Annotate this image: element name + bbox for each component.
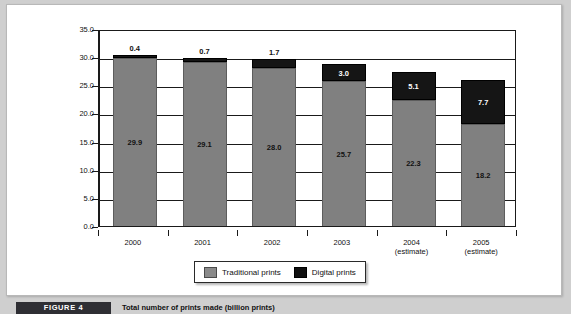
bar-value-label-digital: 0.4	[113, 44, 157, 53]
legend-item[interactable]: Digital prints	[294, 267, 356, 278]
figure-caption-text: Total number of prints made (billion pri…	[122, 302, 275, 314]
bar-segment-digital[interactable]	[252, 59, 296, 69]
bar-segment-traditional[interactable]: 25.7	[322, 81, 366, 226]
bar-stack[interactable]: 25.73.0	[322, 29, 366, 226]
x-axis-tick-mark	[98, 230, 99, 236]
x-axis-tick-label: 2001	[168, 238, 238, 247]
bar-value-label-traditional: 25.7	[323, 150, 365, 159]
x-axis-tick-label: 2004(estimate)	[377, 238, 447, 256]
gridline	[100, 87, 515, 88]
bar-value-label-traditional: 29.1	[184, 140, 226, 149]
x-axis-tick-mark	[377, 230, 378, 236]
legend-label: Traditional prints	[222, 268, 281, 277]
gray-swatch	[204, 267, 217, 278]
x-axis-year: 2001	[194, 238, 211, 247]
x-axis-tick-label: 2002	[237, 238, 307, 247]
figure-card: 35.030.025.020.015.010.05.00.0 29.90.429…	[6, 4, 562, 296]
stacked-bar-chart: 35.030.025.020.015.010.05.00.0 29.90.429…	[7, 5, 563, 297]
bar-stack[interactable]: 29.10.7	[183, 29, 227, 226]
x-axis-estimate-note: (estimate)	[446, 247, 516, 256]
figure-page: 35.030.025.020.015.010.05.00.0 29.90.429…	[0, 0, 571, 314]
bar-segment-digital[interactable]	[113, 55, 157, 57]
bar-segment-traditional[interactable]: 29.9	[113, 58, 157, 226]
chart-legend: Traditional printsDigital prints	[194, 261, 366, 283]
bar-value-label-traditional: 29.9	[114, 138, 156, 147]
x-axis-labels: 20002001200220032004(estimate)2005(estim…	[98, 230, 516, 260]
bar-value-label-digital: 1.7	[252, 48, 296, 57]
x-axis-tick-mark	[446, 230, 447, 236]
gridline	[100, 144, 515, 145]
bar-segment-traditional[interactable]: 29.1	[183, 62, 227, 226]
bar-segment-traditional[interactable]: 18.2	[461, 124, 505, 226]
x-axis-tick-label: 2005(estimate)	[446, 238, 516, 256]
bar-segment-traditional[interactable]: 28.0	[252, 68, 296, 226]
gridline	[100, 59, 515, 60]
x-axis-year: 2003	[333, 238, 350, 247]
y-axis-tick-mark	[92, 227, 98, 228]
bar-segment-traditional[interactable]: 22.3	[392, 100, 436, 226]
bar-value-label-traditional: 22.3	[393, 159, 435, 168]
y-axis-labels: 35.030.025.020.015.010.05.00.0	[62, 30, 94, 227]
bar-value-label-digital: 0.7	[183, 47, 227, 56]
bar-stack[interactable]: 28.01.7	[252, 29, 296, 226]
x-axis-tick-mark	[516, 230, 517, 236]
gridline	[100, 115, 515, 116]
x-axis-tick-mark	[237, 230, 238, 236]
gridline	[100, 200, 515, 201]
bar-segment-digital[interactable]: 5.1	[392, 72, 436, 101]
bar-stack[interactable]: 18.27.7	[461, 29, 505, 226]
x-axis-year: 2004	[403, 238, 420, 247]
x-axis-tick-label: 2003	[307, 238, 377, 247]
x-axis-year: 2002	[264, 238, 281, 247]
x-axis-tick-mark	[168, 230, 169, 236]
x-axis-estimate-note: (estimate)	[377, 247, 447, 256]
black-swatch	[294, 267, 307, 278]
legend-item[interactable]: Traditional prints	[204, 267, 281, 278]
x-axis-year: 2000	[124, 238, 141, 247]
x-axis-tick-label: 2000	[98, 238, 168, 247]
figure-number-tag: FIGURE 4	[16, 302, 111, 314]
legend-label: Digital prints	[312, 268, 356, 277]
x-axis-tick-mark	[307, 230, 308, 236]
bar-value-label-traditional: 18.2	[462, 171, 504, 180]
bar-value-label-traditional: 28.0	[253, 143, 295, 152]
bar-segment-digital[interactable]: 3.0	[322, 64, 366, 81]
x-axis-year: 2005	[473, 238, 490, 247]
bar-stack[interactable]: 29.90.4	[113, 29, 157, 226]
plot-area: 29.90.429.10.728.01.725.73.022.35.118.27…	[98, 30, 516, 227]
bar-value-label-digital: 3.0	[323, 69, 365, 78]
bar-segment-digital[interactable]: 7.7	[461, 80, 505, 123]
gridline	[100, 172, 515, 173]
bar-segment-digital[interactable]	[183, 58, 227, 62]
bar-stack[interactable]: 22.35.1	[392, 29, 436, 226]
bar-value-label-digital: 5.1	[393, 82, 435, 91]
bar-value-label-digital: 7.7	[462, 98, 504, 107]
figure-caption-bar: FIGURE 4 Total number of prints made (bi…	[0, 300, 571, 314]
